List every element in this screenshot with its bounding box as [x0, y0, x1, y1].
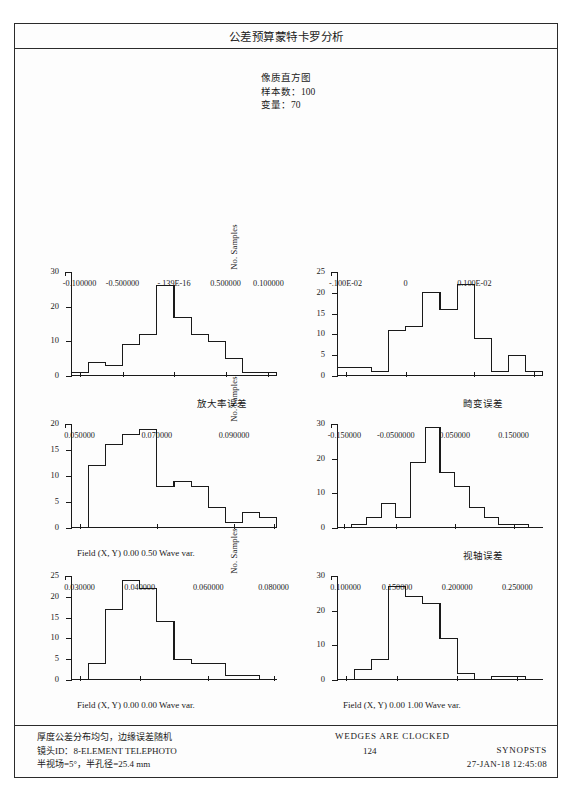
- y-axis-label-text: No. Samples: [229, 210, 239, 284]
- y-tick-label: 30: [317, 418, 326, 428]
- footer-notes: 厚度公差分布均匀，边缘误差随机 镜头ID：8-ELEMENT TELEPHOTO…: [37, 731, 177, 772]
- histogram-wave-var-field-1-000: No. Samples01020300.1000000.1500000.2000…: [287, 568, 559, 720]
- page-number: 124: [363, 746, 377, 756]
- y-axis-label-text: No. Samples: [229, 362, 239, 436]
- x-axis-title: 畸变误差: [463, 396, 503, 410]
- y-tick-label: 10: [51, 470, 60, 480]
- subtitle-line-3: 变量：70: [261, 99, 315, 113]
- plot-area: 01020300.1000000.1500000.2000000.250000: [337, 576, 543, 680]
- y-tick-label: 10: [51, 335, 60, 345]
- y-tick-label: 30: [51, 266, 60, 276]
- y-tick: 0: [332, 680, 338, 681]
- plot-area: 051015200.0500000.0700000.090000: [71, 424, 277, 528]
- y-tick-label: 20: [317, 453, 326, 463]
- plot-area: 0510152025-.100E-0200.100E-02: [337, 272, 543, 376]
- y-tick-label: 25: [317, 266, 326, 276]
- y-tick: 0: [332, 376, 338, 377]
- histogram-steps: [71, 272, 277, 376]
- y-axis-top-cap: [65, 576, 66, 580]
- y-tick-label: 25: [51, 570, 60, 580]
- y-tick-label: 20: [317, 287, 326, 297]
- histogram-steps: [337, 272, 543, 376]
- page-title-bar: 公差预算蒙特卡罗分析: [15, 24, 557, 49]
- y-axis-top-cap: [65, 272, 66, 276]
- report-page: 公差预算蒙特卡罗分析 像质直方图 样本数：100 变量：70 No. Sampl…: [14, 23, 558, 778]
- y-tick-label: 15: [51, 444, 60, 454]
- footer-note-3: 半视场=5°，半孔径=25.4 mm: [37, 758, 177, 772]
- histogram-distortion-error: No. Samples0510152025-.100E-0200.100E-02…: [287, 264, 559, 416]
- histogram-steps: [337, 424, 543, 528]
- plot-area: 0102030-0.150000-0.05000000.0500000.1500…: [337, 424, 543, 528]
- x-axis-title: Field (X, Y) 0.00 0.50 Wave var.: [77, 548, 195, 558]
- plot-area: 0102030-0.100000-0.500000-.139E-160.5000…: [71, 272, 277, 376]
- y-axis-top-cap: [331, 424, 332, 428]
- y-tick-label: 20: [317, 605, 326, 615]
- y-tick: 0: [66, 376, 72, 377]
- histogram-wave-var-field-0-050: No. Samples051015200.0500000.0700000.090…: [21, 416, 293, 568]
- footer-note-1: 厚度公差分布均匀，边缘误差随机: [37, 731, 177, 745]
- footer-center-note: WEDGES ARE CLOCKED: [335, 731, 450, 741]
- y-tick-label: 30: [317, 570, 326, 580]
- histogram-magnification-error: No. Samples0102030-0.100000-0.500000-.13…: [21, 264, 293, 416]
- x-axis-title: 视轴误差: [463, 548, 503, 562]
- subtitle-line-1: 像质直方图: [261, 72, 315, 86]
- histogram-steps: [71, 576, 277, 680]
- plot-area: 05101520250.0300000.0400000.0600000.0800…: [71, 576, 277, 680]
- x-axis-title: Field (X, Y) 0.00 0.00 Wave var.: [77, 700, 195, 710]
- y-tick-label: 10: [317, 639, 326, 649]
- histogram-axis-error: No. Samples0102030-0.150000-0.05000000.0…: [287, 416, 559, 568]
- page-footer: 厚度公差分布均匀，边缘误差随机 镜头ID：8-ELEMENT TELEPHOTO…: [15, 725, 557, 777]
- y-tick-label: 0: [55, 674, 59, 684]
- histogram-steps: [71, 424, 277, 528]
- y-tick-label: 20: [51, 418, 60, 428]
- y-tick-label: 15: [51, 612, 60, 622]
- y-tick: 0: [66, 528, 72, 529]
- y-axis-top-cap: [65, 424, 66, 428]
- y-tick-label: 5: [55, 496, 59, 506]
- histogram-steps: [337, 576, 543, 680]
- histogram-wave-var-field-0-000: No. Samples05101520250.0300000.0400000.0…: [21, 568, 293, 720]
- y-tick-label: 10: [317, 328, 326, 338]
- y-tick-label: 5: [55, 653, 59, 663]
- y-tick: 0: [332, 528, 338, 529]
- y-tick-label: 10: [317, 487, 326, 497]
- histogram-grid: No. Samples0102030-0.100000-0.500000-.13…: [15, 264, 559, 724]
- subtitle-block: 像质直方图 样本数：100 变量：70: [261, 72, 315, 113]
- vendor-brand: SYNOPSTS: [496, 745, 547, 755]
- y-axis-top-cap: [331, 272, 332, 276]
- subtitle-line-2: 样本数：100: [261, 86, 315, 100]
- y-axis-top-cap: [331, 576, 332, 580]
- y-tick-label: 20: [51, 591, 60, 601]
- y-tick-label: 0: [321, 674, 325, 684]
- x-axis-title: 放大率误差: [197, 396, 247, 410]
- y-tick: 0: [66, 680, 72, 681]
- page-title: 公差预算蒙特卡罗分析: [229, 28, 344, 44]
- y-tick-label: 5: [321, 349, 325, 359]
- y-tick-label: 10: [51, 632, 60, 642]
- footer-note-2: 镜头ID：8-ELEMENT TELEPHOTO: [37, 745, 177, 759]
- y-tick-label: 15: [317, 308, 326, 318]
- x-axis-title: Field (X, Y) 0.00 1.00 Wave var.: [343, 700, 461, 710]
- y-tick-label: 20: [51, 301, 60, 311]
- y-axis-label-text: No. Samples: [229, 514, 239, 588]
- timestamp: 27-JAN-18 12:45:08: [467, 759, 547, 769]
